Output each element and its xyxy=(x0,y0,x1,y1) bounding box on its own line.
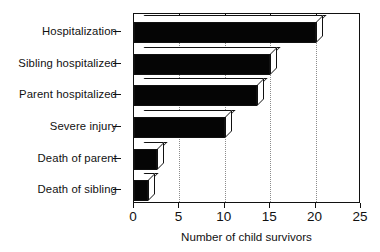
category-axis-label: Death of sibling xyxy=(38,184,121,195)
x-axis-ticklabels: 0510152025 xyxy=(0,210,380,230)
bar-top-face xyxy=(138,47,281,54)
x-axis-ticklabel: 25 xyxy=(352,210,367,224)
category-axis-label: Parent hospitalized xyxy=(19,89,121,100)
category-axis-row: Sibling hospitalized xyxy=(0,55,121,71)
category-axis-label: Death of parent xyxy=(38,153,121,164)
bar xyxy=(134,15,323,43)
category-axis-label: Hospitalization xyxy=(42,26,121,37)
category-axis-row: Severe injury xyxy=(0,119,121,135)
bar xyxy=(134,110,232,138)
x-axis-tick xyxy=(360,203,361,208)
category-axis-row: Death of sibling xyxy=(0,182,121,198)
bar-front-face xyxy=(134,54,270,75)
bar-chart: Hospitalization Sibling hospitalized Par… xyxy=(0,0,380,252)
bar-side-face xyxy=(148,173,155,201)
x-axis-tick xyxy=(133,203,134,208)
category-axis-tick xyxy=(113,63,121,64)
category-axis-label: Sibling hospitalized xyxy=(18,58,121,69)
category-axis-row: Death of parent xyxy=(0,150,121,166)
category-axis-tick xyxy=(113,31,121,32)
x-axis-tick xyxy=(224,203,225,208)
category-axis-row: Parent hospitalized xyxy=(0,87,121,103)
bar-top-face xyxy=(138,78,268,85)
x-axis-tick xyxy=(315,203,316,208)
x-axis-ticklabel: 15 xyxy=(262,210,277,224)
bar xyxy=(134,173,155,201)
x-axis-title: Number of child survivors xyxy=(133,231,360,243)
category-axis-tick xyxy=(113,94,121,95)
bar-top-face xyxy=(138,110,236,117)
bar-front-face xyxy=(134,149,157,170)
bar-side-face xyxy=(270,47,277,75)
bar-top-face xyxy=(138,15,327,22)
x-axis-ticklabel: 0 xyxy=(129,210,137,224)
bar xyxy=(134,47,277,75)
plot-area xyxy=(133,13,360,203)
category-axis-row: Hospitalization xyxy=(0,24,121,40)
bar xyxy=(134,142,164,170)
bar-front-face xyxy=(134,180,148,201)
bar-front-face xyxy=(134,117,225,138)
x-axis-ticklabel: 5 xyxy=(175,210,183,224)
category-axis-tick xyxy=(113,158,121,159)
category-axis-tick xyxy=(113,189,121,190)
category-axis-tick xyxy=(113,126,121,127)
x-axis-ticklabel: 20 xyxy=(307,210,322,224)
bar-front-face xyxy=(134,22,316,43)
bar xyxy=(134,78,264,106)
bar-front-face xyxy=(134,85,257,106)
x-axis-tick xyxy=(178,203,179,208)
category-axis: Hospitalization Sibling hospitalized Par… xyxy=(0,13,121,203)
bar-side-face xyxy=(257,78,264,106)
x-axis-tick xyxy=(269,203,270,208)
category-axis-label: Severe injury xyxy=(50,121,121,132)
bar-side-face xyxy=(225,110,232,138)
bar-series xyxy=(134,14,359,202)
x-axis-ticklabel: 10 xyxy=(216,210,231,224)
